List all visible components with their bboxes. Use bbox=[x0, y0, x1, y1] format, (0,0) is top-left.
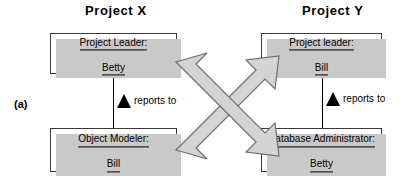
reports-to-label-left: reports to bbox=[134, 95, 176, 106]
role-box-project-x-object-modeler[interactable]: Object Modeler: Bill bbox=[50, 128, 177, 172]
role-person-name: Bill bbox=[107, 158, 120, 173]
column-title-project-x: Project X bbox=[85, 3, 147, 18]
role-person-name: Bill bbox=[315, 61, 328, 76]
role-title: Project Leader: bbox=[80, 36, 148, 51]
up-triangle-icon-right bbox=[326, 92, 340, 106]
reports-to-connector-right bbox=[322, 74, 323, 128]
column-title-project-y: Project Y bbox=[302, 3, 364, 18]
role-title: Object Modeler: bbox=[78, 132, 149, 147]
role-person-name: Betty bbox=[102, 61, 125, 76]
role-title: Project leader: bbox=[289, 36, 353, 51]
role-box-project-y-leader[interactable]: Project leader: Bill bbox=[261, 33, 382, 74]
role-title: Database Administrator: bbox=[268, 132, 375, 147]
role-box-content: Database Administrator: Betty bbox=[262, 126, 381, 173]
reports-to-label-right: reports to bbox=[343, 93, 385, 104]
role-box-project-x-leader[interactable]: Project Leader: Betty bbox=[50, 33, 177, 74]
role-person-name: Betty bbox=[310, 158, 333, 173]
up-triangle-icon-left bbox=[117, 94, 131, 108]
reports-to-connector-left bbox=[113, 74, 114, 128]
role-box-project-y-database-administrator[interactable]: Database Administrator: Betty bbox=[261, 128, 382, 172]
role-box-content: Project Leader: Betty bbox=[51, 30, 176, 77]
role-box-content: Project leader: Bill bbox=[262, 30, 381, 77]
role-box-content: Object Modeler: Bill bbox=[51, 126, 176, 173]
diagram-canvas: Project X Project Y (a) reports to repor… bbox=[0, 0, 416, 196]
figure-section-label: (a) bbox=[14, 98, 27, 110]
